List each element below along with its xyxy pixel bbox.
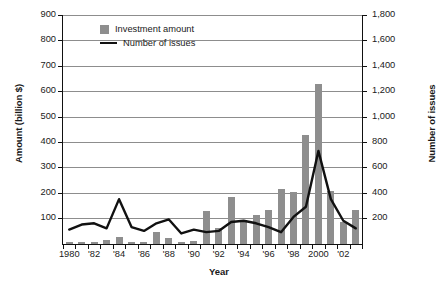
y-axis-right-tick-label: 1,800 (372, 9, 412, 19)
y-axis-right-tick-label: 800 (372, 136, 412, 146)
x-axis-tickmark (362, 245, 363, 249)
y-axis-left-tick-label: 800 (22, 34, 56, 44)
y-axis-right-tick-label: 1,400 (372, 60, 412, 70)
y-axis-right-tick-label: 1,200 (372, 85, 412, 95)
y-axis-right-tick-label: 1,000 (372, 111, 412, 121)
y-axis-right-tick-label: 600 (372, 161, 412, 171)
x-axis-tickmark (213, 245, 214, 249)
x-axis-tickmark (250, 245, 251, 249)
legend-label: Number of issues (123, 38, 195, 48)
x-axis-tickmark (325, 245, 326, 249)
y-axis-left-title: Amount (billion $) (13, 54, 24, 194)
chart-figure: Amount (billion $) Number of issues Year… (0, 0, 438, 289)
y-axis-left-tick-label: 400 (22, 136, 56, 146)
legend-square-icon (100, 25, 109, 34)
y-axis-left-tick-label: 600 (22, 85, 56, 95)
y-axis-left-tick-label: 500 (22, 111, 56, 121)
x-axis-tickmark (350, 245, 351, 249)
x-axis-tickmark (75, 245, 76, 249)
y-axis-left-tick-label: 900 (22, 9, 56, 19)
legend-item-investment-amount: Investment amount (100, 22, 195, 36)
y-axis-right-tick-label: 200 (372, 212, 412, 222)
y-axis-right-tickmark (363, 142, 367, 143)
x-axis-tickmark (188, 245, 189, 249)
y-axis-right-tickmark (363, 15, 367, 16)
x-axis-tickmark (337, 245, 338, 249)
y-axis-right-tickmark (363, 40, 367, 41)
x-axis-tickmark (175, 245, 176, 249)
y-axis-right-tickmark (363, 117, 367, 118)
legend-line-icon (100, 42, 117, 44)
legend-item-number-of-issues: Number of issues (100, 36, 195, 50)
x-axis-tick-label: '02 (323, 249, 363, 259)
legend-label: Investment amount (115, 24, 194, 34)
x-axis-tickmark (113, 245, 114, 249)
x-axis-tickmark (88, 245, 89, 249)
x-axis-tickmark (275, 245, 276, 249)
y-axis-left-tick-label: 700 (22, 60, 56, 70)
x-axis-tickmark (100, 245, 101, 249)
x-axis-tickmark (225, 245, 226, 249)
x-axis-tickmark (312, 245, 313, 249)
y-axis-left-tick-label: 300 (22, 161, 56, 171)
y-axis-right-tickmark (363, 193, 367, 194)
x-axis-tickmark (200, 245, 201, 249)
x-axis-tickmark (287, 245, 288, 249)
y-axis-right-title: Number of issues (426, 49, 437, 199)
x-axis-tickmark (262, 245, 263, 249)
y-axis-left-tick-label: 100 (22, 212, 56, 222)
x-axis-tickmark (138, 245, 139, 249)
y-axis-right-tick-label: 400 (372, 187, 412, 197)
x-axis-tickmark (150, 245, 151, 249)
y-axis-right-tickmark (363, 66, 367, 67)
y-axis-left-tick-label: 200 (22, 187, 56, 197)
x-axis-tickmark (300, 245, 301, 249)
x-axis-tickmark (63, 245, 64, 249)
y-axis-right-tick-label: 1,600 (372, 34, 412, 44)
y-axis-right-tickmark (363, 167, 367, 168)
x-axis-tickmark (237, 245, 238, 249)
x-axis-tickmark (125, 245, 126, 249)
chart-legend: Investment amount Number of issues (100, 22, 195, 50)
y-axis-right-tickmark (363, 218, 367, 219)
x-axis-title: Year (0, 266, 438, 277)
x-axis-tickmark (163, 245, 164, 249)
y-axis-right-tickmark (363, 91, 367, 92)
